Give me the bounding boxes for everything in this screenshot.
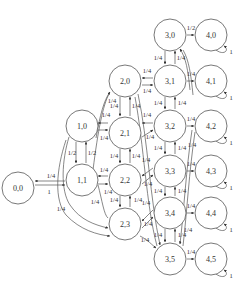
node-4-0: 4,0 [195,19,227,51]
node-label: 3,5 [165,255,175,264]
edge-label: 1/4 [187,160,196,167]
edge-label: 1/4 [108,97,117,104]
edge-label: 1/4 [144,220,153,227]
edge-label: 1/4 [143,87,152,94]
edge-label: 1 [229,272,232,279]
edge-label: 1/2 [187,24,195,31]
node-label: 3,1 [165,77,175,86]
node-4-2: 4,2 [195,110,227,142]
edge-label: 1/4 [187,248,196,255]
node-label: 4,1 [206,77,216,86]
node-label: 4,3 [206,167,216,176]
node-label: 3,2 [165,122,175,131]
node-1-0: 1,0 [66,110,98,142]
node-3-3: 3,3 [154,155,186,187]
edge-label: 1/4 [177,54,186,61]
edge-label: 1/4 [187,70,196,77]
edge-label: 1 [47,188,50,195]
edge-label: 1/4 [154,54,163,61]
node-2-0: 2,0 [109,65,141,97]
edge-label: 1/4 [57,205,66,212]
edge-label: 1/4 [184,226,193,233]
edge-label: 1/4 [110,152,119,159]
node-0-0: 0,0 [2,172,34,204]
edge-label: 1/4 [144,180,153,187]
edge-label: 1/4 [47,172,56,179]
node-2-1: 2,1 [109,117,141,149]
node-3-0: 3,0 [154,19,186,51]
node-label: 2,2 [120,176,130,185]
edge-label: 1/4 [142,156,151,163]
edge-label: 1/2 [68,149,76,156]
edge-label: 1 [229,139,232,146]
edge-label: 1/4 [178,187,187,194]
edge-label: 1/4 [187,202,196,209]
edge-label: 1/4 [154,231,163,238]
edge-label: 1 [229,226,232,233]
node-3-1: 3,1 [154,65,186,97]
node-label: 3,0 [165,31,175,40]
state-diagram: 0,0 1,0 1,1 2,0 2,1 2,2 2,3 3,0 3,1 3,2 … [0,0,247,299]
edge-label: 1 [229,184,232,191]
node-label: 3,4 [165,209,175,218]
edge-label: 1/4 [154,144,163,151]
edge-label: 1/4 [132,102,141,109]
node-label: 2,1 [120,129,130,138]
node-label: 0,0 [13,184,23,193]
node-label: 2,0 [120,77,130,86]
edge-label: 1/4 [104,188,113,195]
edge-label: 1/4 [142,199,151,206]
edge-label: 1/4 [102,111,111,118]
edge-label: 1/4 [154,187,163,194]
edge-label: 1/4 [143,67,152,74]
edge-label: 1/4 [110,196,119,203]
node-3-5: 3,5 [154,243,186,275]
edge-label: 1/4 [187,115,196,122]
edge-label: 1/4 [141,236,150,243]
node-1-1: 1,1 [66,164,98,196]
node-4-3: 4,3 [195,155,227,187]
node-label: 4,0 [206,31,216,40]
edge-labels: 1 1/4 1/2 1/2 1/4 1/4 1/4 1/4 1/4 1/4 1/… [47,24,233,279]
edge-label: 1/4 [146,133,155,140]
node-label: 1,0 [77,122,87,131]
node-label: 4,5 [206,255,216,264]
edge-label: 1 [229,94,232,101]
node-label: 2,3 [120,220,130,229]
node-4-5: 4,5 [195,243,227,275]
node-label: 1,1 [77,176,87,185]
edge-label: 1/4 [154,99,163,106]
node-3-4: 3,4 [154,197,186,229]
node-4-4: 4,4 [195,197,227,229]
node-3-2: 3,2 [154,110,186,142]
edge-label: 1/4 [188,141,197,148]
edge-label: 1 [229,48,232,55]
edge-label: 1/4 [178,99,187,106]
edge-label: 1/4 [100,166,109,173]
node-label: 4,2 [206,122,216,131]
node-label: 4,4 [206,209,216,218]
node-label: 3,3 [165,167,175,176]
node-2-2: 2,2 [109,164,141,196]
edge-label: 1/2 [88,149,96,156]
edge-label: 1/4 [91,198,100,205]
node-2-3: 2,3 [109,208,141,240]
edge-33-22 [142,168,153,176]
edge-label: 1/4 [178,144,187,151]
edge-label: 1/4 [143,111,152,118]
node-4-1: 4,1 [195,65,227,97]
edge-label: 1/4 [132,152,141,159]
edge-label: 1/4 [100,134,109,141]
